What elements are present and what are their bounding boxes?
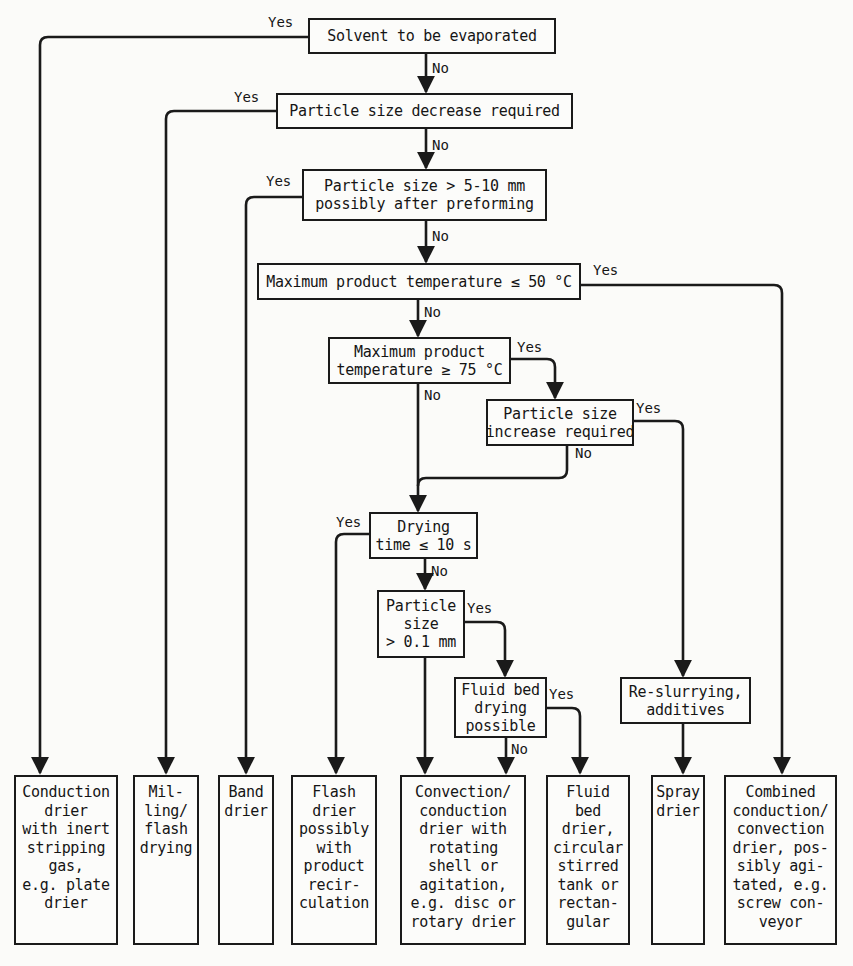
outcome-milling-flash-drying: Mil- ling/ flash drying: [133, 775, 199, 945]
edge-label-yes: Yes: [517, 339, 542, 355]
outcome-flash-drier: Flash drier possibly with product recir-…: [291, 775, 377, 945]
outcome-text: drier, pos-: [732, 839, 828, 858]
outcome-text: Spray: [656, 783, 700, 802]
outcome-conduction-drier: Conduction drier with inert stripping ga…: [14, 775, 118, 945]
edge-label-yes: Yes: [467, 600, 492, 616]
decision-particle-size-0-1mm: Particle size > 0.1 mm: [377, 590, 465, 658]
outcome-text: with inert: [22, 820, 109, 839]
outcome-band-drier: Band drier: [218, 775, 274, 945]
outcome-text: Combined: [746, 783, 816, 802]
outcome-text: Conduction: [22, 783, 109, 802]
outcome-fluid-bed-drier: Fluid bed drier, circular stirred tank o…: [546, 775, 630, 945]
decision-text: possible: [466, 717, 536, 735]
edge-label-no: No: [431, 563, 448, 579]
decision-max-temp-75: Maximum product temperature ≥ 75 °C: [328, 337, 511, 384]
outcome-text: circular: [553, 839, 623, 858]
decision-text: > 0.1 mm: [386, 633, 456, 651]
outcome-text: e.g. plate: [22, 876, 109, 895]
outcome-spray-drier: Spray drier: [651, 775, 705, 945]
outcome-text: drier: [44, 802, 88, 821]
outcome-combined-drier: Combined conduction/ convection drier, p…: [724, 775, 837, 945]
process-reslurrying: Re-slurrying, additives: [620, 677, 751, 724]
decision-particle-size-increase: Particle size increase required: [486, 399, 634, 446]
edge-label-no: No: [432, 137, 449, 153]
outcome-text: drier: [44, 894, 88, 913]
decision-text: Maximum product: [354, 343, 485, 361]
outcome-text: drier,: [562, 820, 614, 839]
decision-particle-size-5-10mm: Particle size > 5-10 mm possibly after p…: [302, 169, 547, 221]
decision-drying-time: Drying time ≤ 10 s: [369, 512, 478, 559]
edge-label-yes: Yes: [234, 89, 259, 105]
outcome-text: sibly agi-: [737, 857, 824, 876]
outcome-text: rectan-: [557, 894, 618, 913]
decision-max-temp-50: Maximum product temperature ≤ 50 °C: [257, 263, 581, 300]
decision-text: drying: [474, 699, 526, 717]
decision-text: Maximum product temperature ≤ 50 °C: [266, 273, 572, 291]
outcome-text: Fluid: [566, 783, 610, 802]
decision-text: Solvent to be evaporated: [327, 27, 537, 45]
outcome-text: veyor: [759, 913, 803, 932]
decision-particle-size-decrease: Particle size decrease required: [276, 93, 573, 129]
outcome-text: Band: [229, 783, 264, 802]
process-text: additives: [646, 701, 725, 719]
outcome-text: tated, e.g.: [732, 876, 828, 895]
outcome-text: Convection/: [415, 783, 511, 802]
edge-label-no: No: [511, 741, 528, 757]
decision-text: Fluid bed: [461, 681, 540, 699]
edge-label-yes: Yes: [549, 686, 574, 702]
edge-label-yes: Yes: [336, 514, 361, 530]
outcome-text: stirred: [557, 857, 618, 876]
outcome-text: screw con-: [737, 894, 824, 913]
decision-text: time ≤ 10 s: [375, 536, 471, 554]
edge-label-yes: Yes: [636, 400, 661, 416]
outcome-text: product: [303, 857, 364, 876]
edge-label-no: No: [424, 304, 441, 320]
outcome-text: tank or: [557, 876, 618, 895]
decision-text: Particle size decrease required: [289, 102, 560, 120]
outcome-text: gular: [566, 913, 610, 932]
outcome-text: conduction: [419, 802, 506, 821]
outcome-text: recir-: [308, 876, 360, 895]
decision-text: temperature ≥ 75 °C: [337, 361, 503, 379]
outcome-text: drier: [312, 802, 356, 821]
outcome-text: drier: [224, 802, 268, 821]
process-text: Re-slurrying,: [629, 683, 743, 701]
outcome-text: Mil-: [149, 783, 184, 802]
outcome-text: Flash: [312, 783, 356, 802]
outcome-text: rotary drier: [411, 913, 516, 932]
edge-label-no: No: [432, 228, 449, 244]
decision-text: Drying: [397, 518, 449, 536]
outcome-text: agitation,: [419, 876, 506, 895]
edge-label-no: No: [432, 60, 449, 76]
outcome-text: drier: [656, 802, 700, 821]
outcome-text: convection: [737, 820, 824, 839]
edge-label-yes: Yes: [593, 262, 618, 278]
outcome-text: shell or: [428, 857, 498, 876]
decision-text: Particle size: [503, 405, 617, 423]
outcome-text: rotating: [428, 839, 498, 858]
edge-label-no: No: [424, 387, 441, 403]
decision-solvent-evaporated: Solvent to be evaporated: [308, 18, 556, 54]
outcome-text: drying: [140, 839, 192, 858]
outcome-text: conduction/: [732, 802, 828, 821]
decision-text: Particle size > 5-10 mm: [324, 177, 525, 195]
decision-fluid-bed-possible: Fluid bed drying possible: [454, 677, 547, 738]
outcome-convection-conduction-drier: Convection/ conduction drier with rotati…: [400, 775, 526, 945]
outcome-text: e.g. disc or: [411, 894, 516, 913]
decision-text: possibly after preforming: [315, 195, 533, 213]
outcome-text: possibly: [299, 820, 369, 839]
edge-label-yes: Yes: [268, 14, 293, 30]
edge-label-no: No: [575, 445, 592, 461]
outcome-text: flash: [144, 820, 188, 839]
outcome-text: bed: [575, 802, 601, 821]
outcome-text: with: [317, 839, 352, 858]
decision-text: Particle: [386, 597, 456, 615]
outcome-text: ling/: [144, 802, 188, 821]
outcome-text: culation: [299, 894, 369, 913]
outcome-text: gas,: [49, 857, 84, 876]
decision-text: size: [404, 615, 439, 633]
outcome-text: stripping: [27, 839, 106, 858]
edge-label-yes: Yes: [266, 173, 291, 189]
decision-text: increase required: [486, 423, 634, 441]
outcome-text: drier with: [419, 820, 506, 839]
